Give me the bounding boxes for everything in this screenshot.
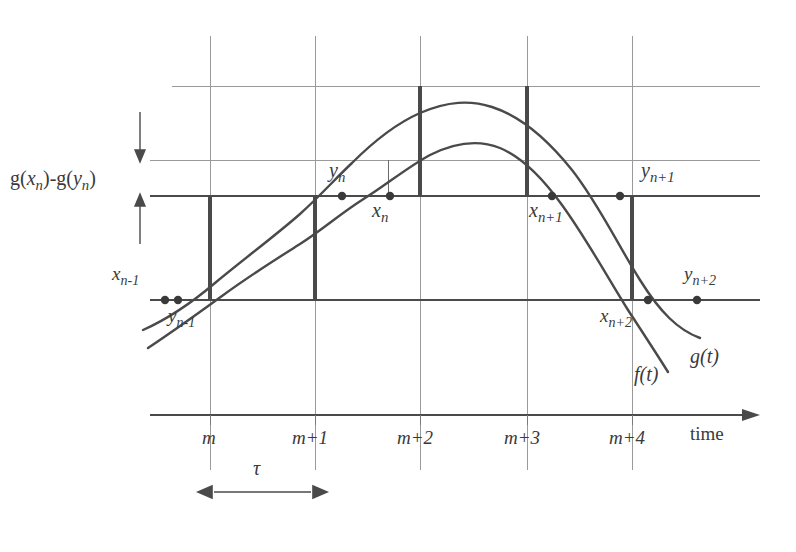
grid-lines-light bbox=[150, 36, 760, 470]
sample-hold-segments bbox=[210, 86, 632, 300]
tau-interval-arrow bbox=[198, 486, 327, 498]
amplitude-gap-x-base: x bbox=[27, 167, 36, 189]
sample-label-y-n: yn bbox=[329, 160, 345, 185]
curve-f bbox=[148, 143, 668, 372]
curve-label-f: f(t) bbox=[634, 364, 658, 384]
dot-x-n-plus-1 bbox=[548, 192, 556, 200]
dot-y-n bbox=[338, 192, 346, 200]
amplitude-gap-label: g(xn)-g(yn) bbox=[10, 168, 96, 193]
sample-label-base: y bbox=[329, 159, 338, 181]
x-tick-label-m-plus-4: m+4 bbox=[609, 428, 645, 447]
x-tick-base: m bbox=[202, 427, 216, 448]
time-axis-arrowhead bbox=[742, 409, 760, 421]
x-tick-base: m bbox=[504, 427, 518, 448]
sample-label-sub: n+2 bbox=[608, 314, 632, 330]
sample-label-sub: n bbox=[381, 209, 388, 225]
sample-label-base: y bbox=[641, 159, 650, 181]
sample-label-base: x bbox=[372, 199, 381, 221]
amplitude-gap-arrows bbox=[135, 112, 145, 244]
sample-label-sub: n-1 bbox=[176, 314, 195, 330]
x-tick-sup: +1 bbox=[306, 427, 328, 448]
sample-label-x-n-plus-2: xn+2 bbox=[600, 306, 632, 329]
x-tick-base: m bbox=[292, 427, 306, 448]
dot-y-n-plus-2 bbox=[693, 296, 701, 304]
x-tick-base: m bbox=[397, 427, 411, 448]
x-tick-label-m-plus-1: m+1 bbox=[292, 428, 328, 447]
curve-label-g: g(t) bbox=[690, 346, 719, 366]
gap-arrow-upper-head bbox=[135, 150, 145, 162]
tau-arrow-head-left bbox=[198, 486, 212, 498]
tau-arrow-head-right bbox=[313, 486, 327, 498]
dot-x-n bbox=[386, 192, 394, 200]
sample-label-x-n: xn bbox=[372, 200, 388, 225]
sample-label-sub: n+2 bbox=[692, 272, 716, 288]
sample-label-sub: n+1 bbox=[650, 169, 675, 185]
sample-label-base: x bbox=[529, 199, 538, 221]
amplitude-gap-y-base: y bbox=[73, 167, 82, 189]
sample-label-x-n-minus-1: xn-1 bbox=[112, 264, 139, 287]
sample-label-sub: n+1 bbox=[538, 209, 563, 225]
time-axis-label: time bbox=[690, 424, 724, 443]
sample-label-sub: n bbox=[338, 169, 345, 185]
gap-arrow-lower-head bbox=[135, 194, 145, 206]
amplitude-gap-x-sub: n bbox=[36, 177, 43, 193]
sample-label-y-n-minus-1: yn-1 bbox=[168, 306, 195, 329]
dot-x-n-plus-2 bbox=[644, 296, 652, 304]
sample-label-sub: n-1 bbox=[120, 272, 139, 288]
x-axis-ticks bbox=[210, 415, 632, 425]
dot-y-n-minus-1 bbox=[174, 296, 182, 304]
grid-lines-dark bbox=[150, 196, 760, 415]
x-tick-label-m: m bbox=[202, 428, 216, 447]
x-tick-sup: +2 bbox=[411, 427, 433, 448]
x-tick-base: m bbox=[609, 427, 623, 448]
x-tick-label-m-plus-3: m+3 bbox=[504, 428, 540, 447]
amplitude-gap-g1: g( bbox=[10, 167, 27, 189]
sample-label-y-n-plus-1: yn+1 bbox=[641, 160, 675, 185]
amplitude-gap-mid: )-g( bbox=[43, 167, 73, 189]
sample-label-x-n-plus-1: xn+1 bbox=[529, 200, 563, 225]
tau-label: τ bbox=[253, 458, 260, 478]
x-tick-label-m-plus-2: m+2 bbox=[397, 428, 433, 447]
x-tick-sup: +4 bbox=[623, 427, 645, 448]
dot-y-n-plus-1 bbox=[616, 192, 624, 200]
x-tick-sup: +3 bbox=[518, 427, 540, 448]
sample-label-y-n-plus-2: yn+2 bbox=[684, 264, 716, 287]
amplitude-gap-close: ) bbox=[89, 167, 96, 189]
level-crossing-sampling-figure: g(xn)-g(yn) xn-1 yn-1 yn xn xn+1 yn+1 xn… bbox=[0, 0, 796, 552]
dot-x-n-minus-1 bbox=[161, 296, 169, 304]
